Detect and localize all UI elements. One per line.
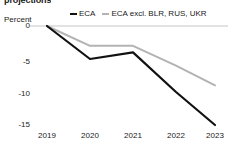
series-line-eca — [47, 26, 215, 125]
series-line-eca-excl — [47, 26, 215, 85]
chart-plot-area — [0, 0, 228, 146]
chart-figure: projections ECA ECA excl. BLR, RUS, UKR … — [0, 0, 228, 146]
